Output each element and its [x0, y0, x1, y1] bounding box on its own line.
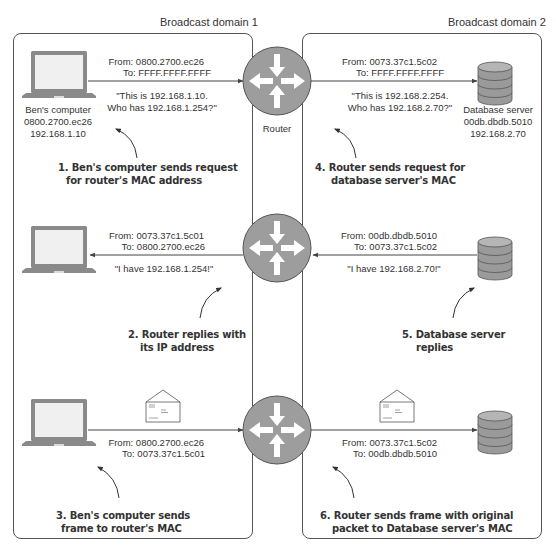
- computer-ip: 192.168.1.10: [10, 128, 106, 140]
- database-icon: [478, 411, 512, 454]
- router-icon: [243, 214, 311, 282]
- step-3-caption: 3. Ben's computer sends frame to router'…: [56, 510, 190, 535]
- router-label: Router: [257, 123, 297, 135]
- database-name: Database server: [450, 104, 546, 116]
- arp-message: "This is 192.168.1.10. Who has 192.168.1…: [104, 90, 220, 113]
- laptop-icon: [22, 226, 96, 273]
- from-mac: From: 00db.dbdb.5010: [340, 230, 437, 242]
- computer-name: Ben's computer: [10, 104, 106, 116]
- caption-line: 5. Database server: [402, 329, 505, 342]
- from-mac: From: 0073.37c1.5c02: [340, 437, 437, 449]
- caption-line: 4. Router sends request for: [315, 162, 465, 175]
- step-1-caption: 1. Ben's computer sends request for rout…: [58, 162, 237, 187]
- arp-reply: "I have 192.168.2.70!": [344, 263, 444, 275]
- caption-line: packet to Database server's MAC: [320, 523, 513, 536]
- database-mac: 00db.dbdb.5010: [450, 116, 546, 128]
- to-mac: To: 0073.37c1.5c01: [100, 448, 205, 460]
- arp-reply: "I have 192.168.1.254!": [104, 263, 224, 275]
- router-icon: [243, 47, 311, 115]
- computer-mac: 0800.2700.ec26: [10, 116, 106, 128]
- caption-line: 1. Ben's computer sends request: [58, 162, 237, 175]
- database-label: Database server 00db.dbdb.5010 192.168.2…: [450, 104, 546, 140]
- to-mac: To: FFFF.FFFF.FFFF: [100, 67, 211, 79]
- to-mac: To: 0073.37c1.5c02: [340, 241, 437, 253]
- message-line: Who has 192.168.2.70?": [342, 102, 458, 114]
- from-mac: From: 0073.37c1.5c02: [340, 56, 437, 68]
- step-6-caption: 6. Router sends frame with original pack…: [320, 510, 513, 535]
- laptop-icon: [22, 51, 96, 98]
- step-5-caption: 5. Database server replies: [402, 329, 505, 354]
- caption-line: its IP address: [128, 342, 246, 355]
- message-line: Who has 192.168.1.254?": [104, 102, 220, 114]
- database-icon: [478, 237, 512, 280]
- caption-line: database server's MAC: [315, 175, 465, 188]
- caption-line: replies: [402, 342, 505, 355]
- caption-line: frame to router's MAC: [56, 523, 190, 536]
- from-mac: From: 0800.2700.ec26: [100, 56, 204, 68]
- caption-line: 6. Router sends frame with original: [320, 510, 513, 523]
- database-ip: 192.168.2.70: [450, 128, 546, 140]
- to-mac: To: 0800.2700.ec26: [100, 241, 205, 253]
- message-line: "This is 192.168.1.10.: [104, 90, 220, 102]
- envelope-icon: [380, 390, 414, 422]
- caption-line: 2. Router replies with: [128, 329, 246, 342]
- to-mac: To: 00db.dbdb.5010: [340, 448, 437, 460]
- message-line: "This is 192.168.2.254.: [342, 90, 458, 102]
- step-2-caption: 2. Router replies with its IP address: [128, 329, 246, 354]
- arp-message: "This is 192.168.2.254. Who has 192.168.…: [342, 90, 458, 113]
- router-icon: [243, 396, 311, 464]
- to-mac: To: FFFF.FFFF.FFFF: [340, 67, 444, 79]
- step-4-caption: 4. Router sends request for database ser…: [315, 162, 465, 187]
- database-icon: [478, 62, 512, 105]
- laptop-icon: [22, 399, 96, 446]
- computer-label: Ben's computer 0800.2700.ec26 192.168.1.…: [10, 104, 106, 140]
- diagram-graphics: [0, 0, 556, 553]
- from-mac: From: 0073.37c1.5c01: [100, 230, 204, 242]
- caption-line: for router's MAC address: [58, 175, 237, 188]
- envelope-icon: [146, 390, 180, 422]
- caption-line: 3. Ben's computer sends: [56, 510, 190, 523]
- from-mac: From: 0800.2700.ec26: [100, 437, 204, 449]
